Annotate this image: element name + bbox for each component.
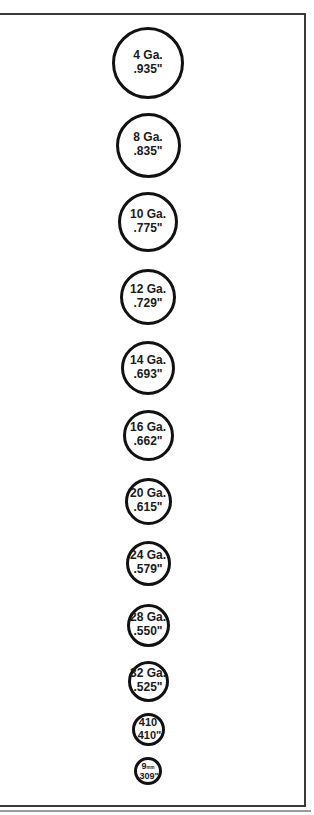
gauge-circle: 410.410" <box>132 713 165 746</box>
gauge-label: 20 Ga. <box>130 487 166 501</box>
gauge-circle: 4 Ga..935" <box>112 27 184 99</box>
gauge-label: 9mm <box>141 761 154 771</box>
gauge-circle: 16 Ga..662" <box>123 410 174 461</box>
gauge-diameter: .729" <box>133 297 162 311</box>
gauge-label: 8 Ga. <box>133 131 162 145</box>
gauge-diameter: .662" <box>133 435 162 449</box>
gauge-circle: 9mm.309" <box>134 757 162 785</box>
gauge-circle: 8 Ga..835" <box>116 113 181 178</box>
gauge-diameter: .309" <box>137 771 159 781</box>
gauge-diameter: .935" <box>133 63 162 77</box>
gauge-label-unit: mm <box>147 765 155 770</box>
gauge-label: 12 Ga. <box>130 283 166 297</box>
gauge-circle: 12 Ga..729" <box>120 269 176 325</box>
gauge-label: 28 Ga. <box>130 611 166 625</box>
gauge-circle: 20 Ga..615" <box>125 478 172 525</box>
gauge-label: 410 <box>139 716 157 729</box>
gauge-diameter: .775" <box>133 222 162 236</box>
gauge-circle: 24 Ga..579" <box>126 541 171 586</box>
gauge-diameter: .410" <box>135 729 162 742</box>
gauge-circle: 10 Ga..775" <box>118 192 178 252</box>
gauge-diameter: .693" <box>133 368 162 382</box>
gauge-diameter: .615" <box>133 501 162 515</box>
gauge-diameter: .525" <box>133 681 162 695</box>
gauge-label: 24 Ga. <box>130 549 166 563</box>
gauge-circle: 32 Ga..525" <box>128 661 169 702</box>
gauge-label: 32 Ga. <box>130 667 166 681</box>
gauge-label: 14 Ga. <box>130 354 166 368</box>
gauge-diameter: .579" <box>133 563 162 577</box>
gauge-label: 16 Ga. <box>130 421 166 435</box>
gauge-label: 4 Ga. <box>133 49 162 63</box>
gauge-circle: 14 Ga..693" <box>121 341 175 395</box>
bottom-rule <box>0 810 311 812</box>
gauge-circle: 28 Ga..550" <box>127 604 170 647</box>
gauge-diameter: .550" <box>133 625 162 639</box>
gauge-label: 10 Ga. <box>130 208 166 222</box>
gauge-diameter: .835" <box>133 145 162 159</box>
